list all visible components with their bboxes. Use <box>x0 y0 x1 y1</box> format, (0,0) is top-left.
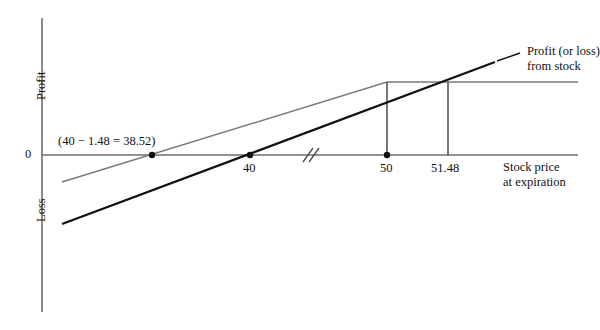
point-marker-50 <box>384 152 390 158</box>
strategy-payoff-line <box>62 82 578 182</box>
series-label-stock-line1: Profit (or loss) <box>527 44 600 59</box>
label-leader-line <box>497 53 520 61</box>
point-marker-38-52 <box>149 152 155 158</box>
x-axis-label-line1: Stock price <box>503 160 560 175</box>
x-axis-label-line2: at expiration <box>503 175 566 190</box>
x-tick-label-40: 40 <box>243 161 256 176</box>
payoff-diagram: Profit Loss 0 (40 − 1.48 = 38.52) 40 50 … <box>0 0 600 330</box>
x-tick-label-51-48: 51.48 <box>431 161 459 176</box>
y-axis-label-loss: Loss <box>34 198 49 222</box>
zero-tick-label: 0 <box>25 147 31 162</box>
annotation-breakeven: (40 − 1.48 = 38.52) <box>58 134 155 149</box>
point-marker-40 <box>247 152 253 158</box>
series-label-stock-line2: from stock <box>527 59 581 74</box>
y-axis-label-profit: Profit <box>34 72 49 100</box>
x-tick-label-50: 50 <box>380 161 393 176</box>
